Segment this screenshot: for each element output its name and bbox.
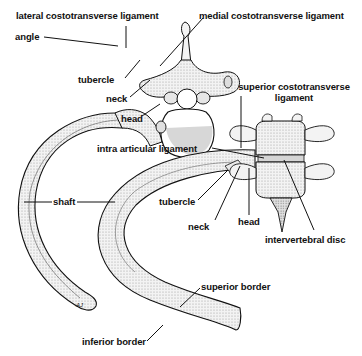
label-superior-costotransverse-line1: superior costotransverse bbox=[234, 81, 354, 92]
vertebral-column-lateral-view bbox=[230, 114, 334, 232]
label-inferior-border: inferior border bbox=[82, 336, 146, 347]
label-tubercle-lateral-view: tubercle bbox=[159, 196, 195, 207]
label-neck-lateral-view: neck bbox=[188, 221, 209, 232]
artist-signature: AJ bbox=[76, 302, 83, 308]
label-neck-superior-view: neck bbox=[106, 93, 127, 104]
label-intervertebral-disc: intervertebral disc bbox=[265, 234, 345, 245]
label-medial-costotransverse-ligament: medial costotransverse ligament bbox=[199, 10, 344, 21]
rib-lateral-view bbox=[98, 150, 255, 330]
label-tubercle-superior-view: tubercle bbox=[78, 74, 114, 85]
label-head-lateral-view: head bbox=[238, 216, 260, 227]
label-superior-border: superior border bbox=[201, 281, 270, 292]
label-angle: angle bbox=[15, 31, 39, 42]
label-superior-costotransverse-ligament: superior costotransverse ligament bbox=[234, 81, 354, 103]
rib-anatomy-illustration bbox=[0, 0, 362, 356]
label-lateral-costotransverse-ligament: lateral costotransverse ligament bbox=[16, 10, 159, 21]
label-superior-costotransverse-line2: ligament bbox=[234, 92, 354, 103]
label-shaft: shaft bbox=[53, 196, 75, 207]
label-intra-articular-ligament: intra articular ligament bbox=[97, 143, 197, 154]
label-head-superior-view: head bbox=[121, 113, 143, 124]
